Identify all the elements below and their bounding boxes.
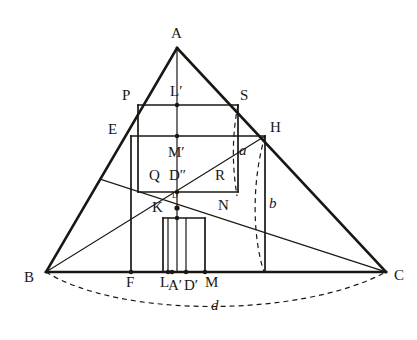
point-label-lp: L′ bbox=[170, 84, 182, 99]
point-label-h: H bbox=[270, 120, 281, 135]
point-label-ap: A′ bbox=[168, 278, 182, 293]
vertex-dot-Ap bbox=[170, 270, 174, 274]
point-label-s: S bbox=[240, 88, 248, 103]
vertex-dot-KN bbox=[175, 216, 179, 220]
point-label-k: K bbox=[152, 200, 163, 215]
arc-b bbox=[255, 136, 265, 272]
point-label-d: D bbox=[172, 192, 178, 200]
point-label-r: R bbox=[215, 168, 225, 183]
point-label-d: d bbox=[211, 298, 219, 313]
triangle-group bbox=[46, 48, 386, 272]
point-label-q: Q bbox=[149, 168, 160, 183]
point-label-n: N bbox=[218, 198, 229, 213]
point-label-b: B bbox=[24, 270, 34, 285]
square-group bbox=[131, 105, 265, 272]
point-label-dpp: D″ bbox=[169, 168, 186, 183]
point-label-dp: D′ bbox=[184, 278, 198, 293]
point-label-f: F bbox=[126, 275, 134, 290]
point-label-p: P bbox=[122, 88, 130, 103]
point-label-b: b bbox=[269, 196, 277, 211]
vertex-dot-Dp bbox=[184, 270, 188, 274]
cevian-group bbox=[46, 48, 386, 272]
point-label-e: E bbox=[108, 122, 117, 137]
point-label-c: C bbox=[394, 268, 404, 283]
point-label-m: M bbox=[205, 275, 218, 290]
point-label-a: A bbox=[171, 26, 182, 41]
vertex-dot-D bbox=[174, 205, 179, 210]
geometry-figure: APL′SEHM′QD″RDKNBFLA′D′MCabd bbox=[0, 0, 417, 340]
point-label-a: a bbox=[239, 143, 247, 158]
side-AB bbox=[46, 48, 177, 272]
point-label-mp: M′ bbox=[168, 145, 185, 160]
vertex-dot-Mp bbox=[175, 134, 179, 138]
vertex-dot-Lp bbox=[175, 103, 179, 107]
